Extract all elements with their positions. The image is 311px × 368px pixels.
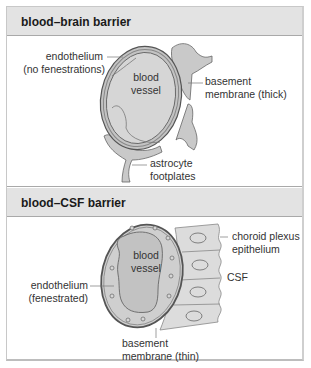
label-csf: CSF <box>227 271 248 283</box>
label-vessel-bbb-1: blood <box>133 71 159 83</box>
nucleus-4 <box>186 311 202 321</box>
nucleus-1 <box>190 233 206 243</box>
label-basement-bcsf-1: basement <box>122 337 168 349</box>
nucleus-2 <box>192 260 208 270</box>
bcsf-diagram: choroid plexus epithelium blood vessel C… <box>28 216 299 362</box>
label-fenestrated: (fenestrated) <box>28 292 88 304</box>
diagram-canvas: endothelium (no fenestrations) blood ves… <box>0 0 311 368</box>
label-no-fenestrations: (no fenestrations) <box>23 63 105 75</box>
label-endothelium-bbb: endothelium <box>46 50 103 62</box>
label-astrocyte-1: astrocyte <box>150 157 193 169</box>
label-astrocyte-2: footplates <box>150 170 196 182</box>
label-endothelium-bcsf-1: endothelium <box>31 279 88 291</box>
label-choroid-2: epithelium <box>232 243 280 255</box>
label-basement-bbb-2: membrane (thick) <box>205 88 287 100</box>
label-vessel-bbb-2: vessel <box>131 84 161 96</box>
label-choroid-1: choroid plexus <box>232 230 300 242</box>
bbb-diagram: endothelium (no fenestrations) blood ves… <box>23 39 286 182</box>
label-basement-bcsf-2: membrane (thin) <box>122 350 199 362</box>
label-vessel-bcsf-1: blood <box>133 249 159 261</box>
nucleus-3 <box>190 287 206 297</box>
label-vessel-bcsf-2: vessel <box>131 262 161 274</box>
label-basement-bbb-1: basement <box>205 75 251 87</box>
